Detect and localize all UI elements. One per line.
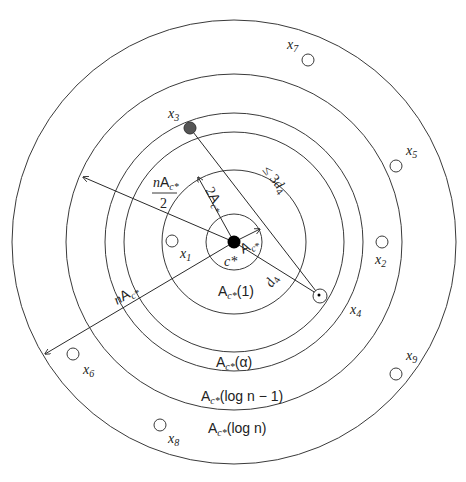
- label-x4: x4: [349, 302, 361, 319]
- label-x6: x6: [82, 362, 94, 379]
- center-label: c*: [224, 254, 237, 269]
- label-half-nA: nAc* 2: [152, 174, 179, 211]
- ring-label-1: Ac*(1): [218, 283, 254, 301]
- svg-text:nAc*: nAc*: [153, 174, 179, 192]
- label-x1: x1: [179, 246, 191, 263]
- ring-label-alpha: Ac*(α): [216, 354, 252, 372]
- radius-line-nA: [45, 242, 234, 354]
- svg-text:nAc*: nAc*: [111, 281, 142, 309]
- label-x2: x2: [374, 252, 386, 269]
- label-x3: x3: [167, 106, 179, 123]
- point-x3: [184, 122, 196, 134]
- point-x2: [376, 236, 388, 248]
- label-x9: x9: [405, 348, 417, 365]
- ring-label-logn-minus-1: Ac*(log n − 1): [201, 388, 283, 406]
- label-x7: x7: [286, 37, 299, 54]
- point-x9: [390, 368, 402, 380]
- label-nA: nAc*: [111, 281, 142, 309]
- svg-text:d4: d4: [262, 271, 283, 290]
- point-x1: [166, 235, 178, 247]
- label-x8: x8: [167, 431, 179, 448]
- svg-text:Ac*: Ac*: [237, 234, 262, 259]
- concentric-rings-diagram: c* Ac* 2Ac* nAc* 2 nAc* ≤ 3d4 d4 Ac*(1) …: [0, 0, 466, 482]
- point-x6: [67, 348, 79, 360]
- label-x5: x5: [405, 143, 417, 160]
- label-d4: d4: [262, 271, 283, 290]
- label-A-inner: Ac*: [237, 234, 262, 259]
- svg-text:2: 2: [160, 196, 167, 211]
- point-x5: [390, 160, 402, 172]
- ring-label-logn: Ac*(log n): [208, 420, 266, 438]
- point-x7: [302, 54, 314, 66]
- point-x4-dot: [318, 294, 321, 297]
- point-x8: [154, 419, 166, 431]
